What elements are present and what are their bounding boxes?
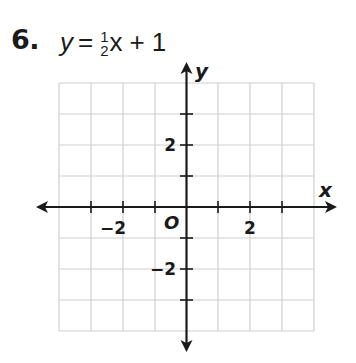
x-axis-label: x bbox=[318, 178, 333, 202]
y-tick-label-2: 2 bbox=[164, 135, 176, 155]
y-tick-label-neg2: −2 bbox=[150, 259, 176, 279]
x-tick-label-2: 2 bbox=[244, 218, 256, 238]
x-tick-label-neg2: −2 bbox=[100, 218, 126, 238]
origin-label: O bbox=[164, 212, 179, 233]
coordinate-plane: y x O −2 2 2 −2 bbox=[0, 0, 356, 363]
y-axis-label: y bbox=[195, 59, 209, 83]
